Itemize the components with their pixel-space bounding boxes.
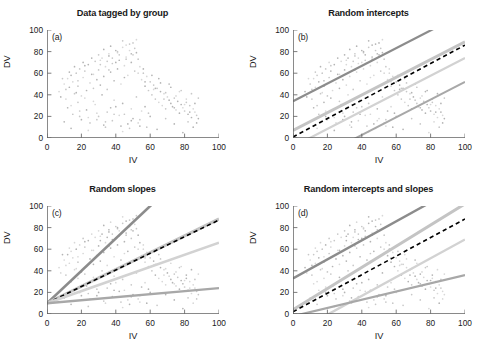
ytick-label: 20	[19, 112, 43, 120]
xtick-label: 40	[103, 143, 129, 151]
panel-c-title: Random slopes	[0, 183, 245, 195]
panel-a-title: Data tagged by group	[0, 7, 245, 19]
xtick-label: 0	[34, 143, 60, 151]
xtick-label: 20	[68, 319, 94, 327]
xtick-label: 0	[280, 319, 306, 327]
ytick-label: 40	[19, 267, 43, 275]
ytick-label: 100	[265, 202, 289, 210]
ytick-label: 0	[19, 310, 43, 318]
panel-d-tag: (d)	[298, 208, 308, 218]
xtick-label: 40	[349, 143, 375, 151]
xtick-label: 20	[314, 143, 340, 151]
panel-a-plot: (a)	[47, 30, 219, 138]
xtick-label: 80	[172, 143, 198, 151]
panel-b-xlabel: IV	[293, 155, 465, 165]
xtick-label: 60	[137, 319, 163, 327]
regression-lines	[47, 206, 219, 303]
ytick-label: 100	[19, 202, 43, 210]
panel-c-tag: (c)	[52, 208, 61, 218]
panel-d-canvas	[293, 206, 465, 314]
panel-d-plot: (d)	[293, 206, 465, 314]
ytick-label: 80	[265, 224, 289, 232]
panel-a-ylabel: DV	[2, 56, 12, 68]
ytick-label: 60	[19, 69, 43, 77]
panel-b: Random intercepts DV 020406080100 (b) 02…	[246, 0, 491, 176]
panel-a-xlabel: IV	[47, 155, 219, 165]
ytick-label: 20	[265, 112, 289, 120]
panel-b-tag: (b)	[298, 32, 308, 42]
panel-b-xticks: 020406080100	[293, 140, 465, 154]
ytick-label: 20	[265, 288, 289, 296]
panel-d-xticks: 020406080100	[293, 316, 465, 330]
panel-a-canvas	[47, 30, 219, 138]
panel-a-tag: (a)	[52, 32, 62, 42]
ytick-label: 0	[265, 134, 289, 142]
xtick-label: 20	[314, 319, 340, 327]
panel-c: Random slopes DV 020406080100 (c) 020406…	[0, 176, 245, 352]
xtick-label: 100	[452, 143, 478, 151]
xtick-label: 40	[349, 319, 375, 327]
line-pooled	[293, 45, 465, 137]
ytick-label: 40	[265, 91, 289, 99]
ytick-label: 80	[19, 224, 43, 232]
ytick-label: 20	[19, 288, 43, 296]
panel-a-yticks: 020406080100	[17, 30, 43, 138]
panel-c-xticks: 020406080100	[47, 316, 219, 330]
xtick-label: 20	[68, 143, 94, 151]
ytick-label: 80	[265, 48, 289, 56]
ytick-label: 100	[265, 26, 289, 34]
xtick-label: 60	[383, 319, 409, 327]
xtick-label: 80	[418, 319, 444, 327]
panel-c-yticks: 020406080100	[17, 206, 43, 314]
panel-c-canvas	[47, 206, 219, 314]
panel-d-yticks: 020406080100	[263, 206, 289, 314]
line-group-1	[47, 206, 219, 303]
ytick-label: 100	[19, 26, 43, 34]
ytick-label: 60	[19, 245, 43, 253]
xtick-label: 80	[418, 143, 444, 151]
xtick-label: 60	[383, 143, 409, 151]
panel-b-plot: (b)	[293, 30, 465, 138]
panel-a: Data tagged by group DV 020406080100 (a)…	[0, 0, 245, 176]
ytick-label: 40	[19, 91, 43, 99]
scatter-points	[58, 39, 199, 134]
panel-b-yticks: 020406080100	[263, 30, 289, 138]
line-group-1	[293, 206, 465, 278]
regression-lines	[293, 206, 465, 314]
panel-a-xticks: 020406080100	[47, 140, 219, 154]
xtick-label: 100	[206, 143, 232, 151]
axis-spines	[47, 30, 219, 138]
regression-lines	[293, 30, 465, 138]
panel-b-ylabel: DV	[248, 56, 258, 68]
ytick-label: 60	[265, 69, 289, 77]
ytick-label: 80	[19, 48, 43, 56]
axis-spines	[293, 30, 465, 138]
panel-d-xlabel: IV	[293, 331, 465, 341]
ytick-label: 40	[265, 267, 289, 275]
xtick-label: 0	[34, 319, 60, 327]
xtick-label: 0	[280, 143, 306, 151]
panel-b-title: Random intercepts	[246, 7, 491, 19]
panel-b-canvas	[293, 30, 465, 138]
panel-d-title: Random intercepts and slopes	[246, 183, 491, 195]
axis-spines	[293, 206, 465, 314]
xtick-label: 60	[137, 143, 163, 151]
xtick-label: 40	[103, 319, 129, 327]
figure-multilevel-models: Data tagged by group DV 020406080100 (a)…	[0, 0, 491, 352]
ytick-label: 0	[19, 134, 43, 142]
panel-c-xlabel: IV	[47, 331, 219, 341]
panel-c-ylabel: DV	[2, 232, 12, 244]
ytick-label: 60	[265, 245, 289, 253]
panel-d-ylabel: DV	[248, 232, 258, 244]
xtick-label: 100	[452, 319, 478, 327]
ytick-label: 0	[265, 310, 289, 318]
scatter-points	[304, 39, 445, 134]
panel-c-plot: (c)	[47, 206, 219, 314]
panel-d: Random intercepts and slopes DV 02040608…	[246, 176, 491, 352]
xtick-label: 80	[172, 319, 198, 327]
xtick-label: 100	[206, 319, 232, 327]
